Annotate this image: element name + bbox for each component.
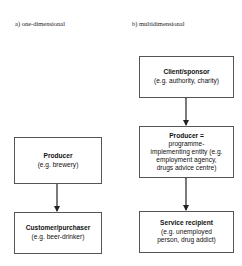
customer-box-a: Customer/purchaser (e.g. beer-drinker)	[14, 212, 102, 254]
producer-b-line-2: implementing entity (e.g.	[151, 148, 223, 156]
producer-b-line-1: programme-	[169, 140, 205, 148]
producer-b-title: Producer =	[169, 132, 204, 140]
client-example: (e.g. authority, charity)	[154, 77, 219, 86]
producer-box-a: Producer (e.g. brewery)	[14, 137, 102, 184]
customer-example: (e.g. beer-drinker)	[32, 233, 85, 242]
producer-title: Producer	[44, 152, 73, 161]
producer-b-line-3: employment agency,	[156, 156, 216, 164]
client-sponsor-box: Client/sponsor (e.g. authority, charity)	[139, 56, 234, 98]
service-recipient-box: Service recipient (e.g. unemployed perso…	[139, 211, 234, 253]
recipient-line-1: (e.g. unemployed	[161, 228, 212, 237]
client-title: Client/sponsor	[163, 68, 209, 77]
producer-box-b: Producer = programme- implementing entit…	[139, 126, 234, 178]
producer-example: (e.g. brewery)	[38, 161, 79, 170]
customer-title: Customer/purchaser	[26, 224, 91, 233]
recipient-line-2: person, drug addict)	[157, 236, 216, 245]
recipient-title: Service recipient	[160, 219, 213, 228]
producer-b-line-4: drugs advice centre)	[157, 164, 217, 172]
